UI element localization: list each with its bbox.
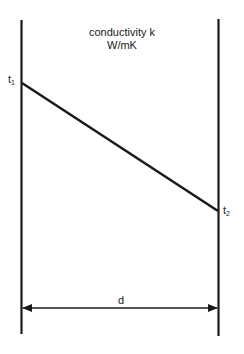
conductivity-label: conductivity k (89, 26, 156, 38)
temperature-t2-label: t2 (223, 204, 230, 217)
heat-conduction-wall-diagram: conductivity k W/mK t1 t2 d (0, 0, 244, 354)
conductivity-units-label: W/mK (107, 39, 138, 51)
thickness-label: d (118, 294, 124, 306)
temperature-profile-line (22, 83, 218, 211)
temperature-t1-label: t1 (8, 73, 15, 86)
